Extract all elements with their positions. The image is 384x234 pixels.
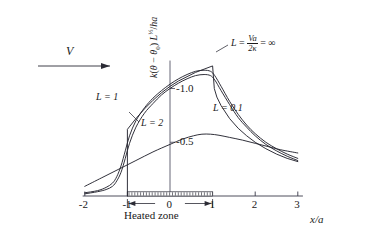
y-axis-label: k(θ − θ0) L½/ha: [148, 17, 162, 78]
flow-velocity-label: V: [66, 45, 73, 57]
x-axis-label: x/a: [310, 214, 323, 225]
x-tick-label--2: -2: [79, 199, 88, 210]
axes-group: [83, 61, 303, 196]
heated-zone-rect: [127, 192, 212, 196]
curve-label-L-infinity-fraction: Va2κ: [247, 34, 258, 53]
y-tick-label-1.0: -1.0: [176, 83, 193, 94]
y-tick-label-0.5: -0.5: [176, 136, 193, 147]
chart-canvas: [0, 0, 384, 234]
curve-label-L-2: L = 2: [141, 118, 163, 128]
figure-container: -1.0 -0.5 -2 -1 0 1 2 3 k(θ − θ0) L½/ha …: [0, 0, 384, 234]
curve-label-L-infinity-eq: =: [237, 37, 248, 48]
leader-line-L-infinity: [216, 45, 228, 52]
x-tick-label-1: 1: [210, 199, 216, 210]
curve-label-L-infinity-tail: = ∞: [258, 37, 276, 48]
curve-label-L-infinity: L = Va2κ = ∞: [231, 34, 275, 53]
x-tick-label-2: 2: [252, 199, 258, 210]
heated-zone-label: Heated zone: [124, 210, 179, 221]
flow-arrow-head: [101, 63, 110, 69]
curve-label-L-1: L = 1: [96, 92, 118, 102]
curve-Linf: [127, 66, 297, 196]
heated-zone-band: [127, 192, 212, 196]
fraction-denominator: 2κ: [247, 44, 258, 53]
x-tick-label-3: 3: [294, 199, 300, 210]
curve-label-L-0.1: L = 0.1: [213, 103, 243, 113]
